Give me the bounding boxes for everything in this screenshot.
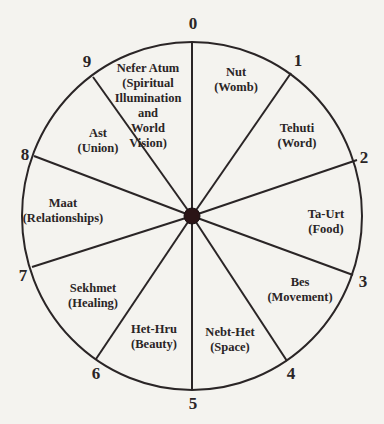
sector-bes: Bes(Movement) [267,275,332,305]
spoke-number-6: 6 [92,365,101,382]
sector-subtitle: (Space) [205,340,254,355]
spoke-number-1: 1 [294,52,303,69]
sector-title: Sekhmet [68,281,118,296]
sector-subtitle: (Spiritual [115,76,182,91]
spoke-number-2: 2 [360,149,369,166]
sector-ta-urt: Ta-Urt(Food) [308,207,344,237]
sector-subtitle: (Movement) [267,290,332,305]
sector-nut: Nut(Womb) [214,65,258,95]
sector-subtitle: World [115,121,182,136]
sector-subtitle: (Beauty) [131,337,177,352]
sector-subtitle: (Relationships) [23,211,104,226]
spoke-number-4: 4 [287,365,296,382]
sector-title: Tehuti [278,121,317,136]
sector-subtitle: Vision) [115,136,182,151]
sector-title: Ta-Urt [308,207,344,222]
sector-nebt-het: Nebt-Het(Space) [205,325,254,355]
spoke-number-9: 9 [83,53,92,70]
center-hub [184,208,200,224]
sector-subtitle: (Union) [78,141,119,156]
sector-title: Nebt-Het [205,325,254,340]
sector-subtitle: Illumination [115,91,182,106]
sector-title: Nefer Atum [115,61,182,76]
spoke-number-5: 5 [189,395,198,412]
sector-ast: Ast(Union) [78,126,119,156]
sector-sekhmet: Sekhmet(Healing) [68,281,118,311]
sector-title: Bes [267,275,332,290]
spoke-number-7: 7 [19,267,28,284]
sector-nefer-atum: Nefer Atum(SpiritualIlluminationandWorld… [115,61,182,151]
sector-het-hru: Het-Hru(Beauty) [131,322,177,352]
spoke-number-0: 0 [189,15,198,32]
sector-tehuti: Tehuti(Word) [278,121,317,151]
spoke-number-3: 3 [359,273,368,290]
sector-maat: Maat(Relationships) [23,196,104,226]
sector-subtitle: (Womb) [214,80,258,95]
sector-subtitle: (Healing) [68,296,118,311]
sector-title: Maat [23,196,104,211]
sector-subtitle: (Word) [278,136,317,151]
sector-subtitle: and [115,106,182,121]
spoke-number-8: 8 [21,146,30,163]
sector-title: Nut [214,65,258,80]
sector-subtitle: (Food) [308,222,344,237]
sector-title: Ast [78,126,119,141]
sector-title: Het-Hru [131,322,177,337]
